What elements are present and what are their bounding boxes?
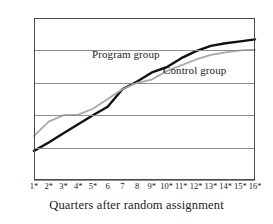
series-label-program-group: Program group <box>92 48 160 60</box>
x-axis-tick-label: 2* <box>44 181 53 191</box>
x-axis-tick-label: 9* <box>148 181 157 191</box>
x-axis-tick-label: 7 <box>120 181 124 191</box>
x-axis-tick-label: 13* <box>204 181 217 191</box>
x-axis-tick-label: 12* <box>190 181 203 191</box>
x-axis-tick-label: 5* <box>89 181 98 191</box>
x-axis-tick-label: 14* <box>219 181 232 191</box>
x-axis-tick-label: 11* <box>175 181 187 191</box>
x-axis-tick-label: 16* <box>249 181 262 191</box>
plot-area <box>34 18 255 180</box>
line-chart: 050100150200250 Program group Control gr… <box>0 0 273 224</box>
x-axis: 1*2*3*4*5*6789*10*11*12*13*14*15*16* <box>34 181 255 195</box>
x-axis-tick-label: 3* <box>59 181 68 191</box>
x-axis-tick-label: 1* <box>30 181 39 191</box>
x-axis-tick-label: 4* <box>74 181 83 191</box>
x-axis-tick-label: 15* <box>234 181 247 191</box>
x-axis-title: Quarters after random assignment <box>0 198 273 213</box>
plot-frame <box>34 18 255 180</box>
series-label-control-group: Control group <box>163 64 226 76</box>
x-axis-tick-label: 8 <box>135 181 139 191</box>
x-axis-tick-label: 6 <box>106 181 110 191</box>
x-axis-tick-label: 10* <box>160 181 173 191</box>
